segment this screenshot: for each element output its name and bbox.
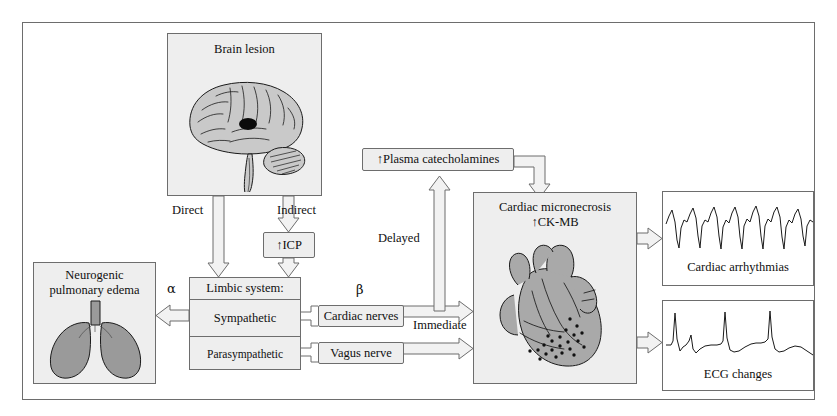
panel-heart-title-line2: ↑CK-MB — [474, 215, 636, 230]
panel-lungs-title-line2: pulmonary edema — [34, 283, 155, 298]
panel-lungs-title-line1: Neurogenic — [34, 268, 155, 283]
box-increased-icp: ↑ICP — [263, 232, 315, 258]
label-beta-receptor: β — [356, 282, 364, 297]
label-immediate: Immediate — [413, 318, 466, 333]
panel-cardiac-arrhythmias: Cardiac arrhythmias — [662, 191, 814, 286]
heart-illustration — [474, 235, 638, 383]
panel-brain-lesion: Brain lesion — [167, 33, 322, 196]
limbic-parasympathetic: Parasympathetic — [190, 337, 300, 371]
panel-cardiac-micronecrosis: Cardiac micronecrosis ↑CK-MB — [473, 192, 637, 384]
panel-heart-title-line1: Cardiac micronecrosis — [474, 200, 636, 215]
box-plasma-catecholamines: ↑Plasma catecholamines — [362, 148, 514, 171]
panel-ecg-changes: ECG changes — [662, 300, 814, 391]
box-vagus-nerve: Vagus nerve — [318, 342, 404, 364]
ecg-normal-trace — [663, 305, 815, 365]
panel-brain-title: Brain lesion — [168, 42, 321, 57]
brain-lateral-illustration — [168, 62, 323, 192]
ecg-arrhythmia-trace — [663, 196, 815, 258]
label-direct: Direct — [172, 203, 203, 218]
label-indirect: Indirect — [277, 203, 316, 218]
lungs-illustration — [34, 299, 157, 383]
panel-arrhythmias-caption: Cardiac arrhythmias — [663, 260, 813, 275]
figure-root: .ar { fill:#f2f2f2; stroke:#6d6d6d; stro… — [0, 0, 837, 416]
label-alpha-receptor: α — [167, 281, 176, 296]
panel-neurogenic-pulmonary-edema: Neurogenic pulmonary edema — [33, 262, 156, 384]
limbic-system-title: Limbic system: — [190, 278, 300, 300]
panel-ecg-caption: ECG changes — [663, 367, 813, 382]
limbic-sympathetic: Sympathetic — [190, 300, 300, 337]
label-delayed: Delayed — [378, 231, 420, 246]
box-cardiac-nerves: Cardiac nerves — [318, 305, 404, 327]
box-limbic-system-group: Limbic system: Sympathetic Parasympathet… — [189, 277, 301, 370]
brain-lesion-marker — [239, 118, 257, 130]
